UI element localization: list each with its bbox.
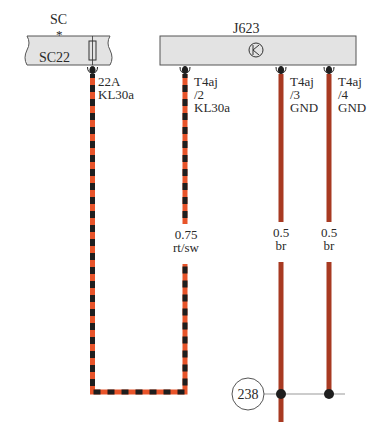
ground-point-label: 238: [232, 388, 264, 401]
wiring-diagram: [0, 0, 381, 436]
wire-label-gnd-4: 0.5br: [317, 226, 341, 252]
splice-dot: [276, 389, 286, 399]
pin-connector-icons: [88, 66, 335, 73]
pin-label-t4aj-4: T4aj/4GND: [338, 75, 366, 114]
wire-label-kl30a: 0.75rt/sw: [170, 228, 202, 254]
control-unit-ref: J623: [233, 22, 259, 35]
control-unit-box: [160, 36, 356, 65]
pin-label-t4aj-2: T4aj/2KL30a: [194, 75, 230, 114]
fuse-holder-marker: *: [56, 28, 63, 41]
splice-dot: [324, 389, 334, 399]
pin-label-t4aj-3: T4aj/3GND: [290, 75, 318, 114]
pin-label-fuse-out: 22AKL30a: [98, 75, 134, 101]
fuse-label: SC22: [39, 51, 70, 64]
wire-label-gnd-3: 0.5br: [269, 226, 293, 252]
fuse-holder-ref: SC: [50, 13, 67, 26]
